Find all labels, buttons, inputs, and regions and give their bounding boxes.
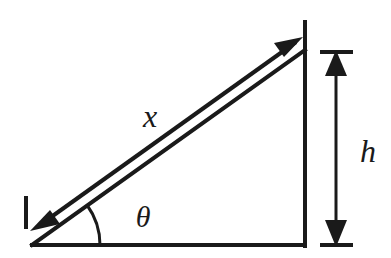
x-dimension-arrow-shaft [40,42,296,225]
h-dimension-label: h [360,133,376,169]
h-arrowhead-bottom-icon [325,220,347,247]
theta-angle-arc [87,205,100,245]
theta-angle-label: θ [136,200,151,233]
x-dimension-label: x [142,98,157,134]
diagram-canvas: x h θ [0,0,391,258]
triangle-hypotenuse-line [32,50,305,245]
trig-diagram-figure: x h θ [0,0,391,258]
